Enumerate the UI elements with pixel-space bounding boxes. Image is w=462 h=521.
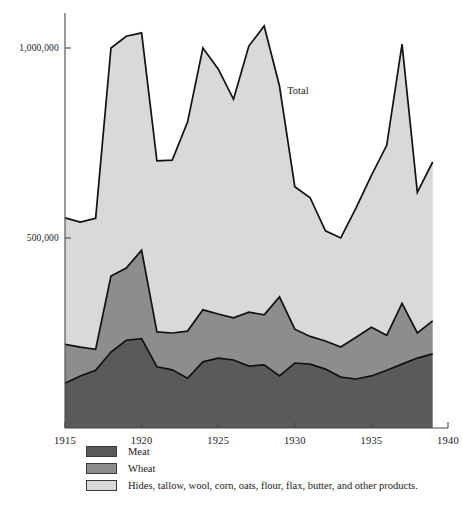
legend-label-other-products: Hides, tallow, wool, corn, oats, flour, …	[128, 480, 418, 491]
y-axis-tick-label: 1,000,000	[19, 43, 59, 53]
chart-container: 500,0001,000,000 19151920192519301935194…	[0, 0, 462, 521]
chart-legend: Meat Wheat Hides, tallow, wool, corn, oa…	[0, 443, 462, 503]
y-axis-tick-label: 500,000	[27, 233, 59, 243]
stacked-area-bands	[65, 26, 433, 428]
legend-item-other-products: Hides, tallow, wool, corn, oats, flour, …	[0, 477, 462, 494]
y-axis-ticks	[65, 48, 71, 238]
legend-item-meat: Meat	[0, 443, 462, 460]
legend-label-wheat: Wheat	[128, 463, 155, 474]
chart-annotations: Total	[287, 85, 309, 96]
total-label: Total	[287, 85, 309, 96]
legend-label-meat: Meat	[128, 446, 150, 457]
legend-swatch-wheat	[86, 463, 117, 474]
legend-swatch-meat	[86, 446, 117, 457]
legend-item-wheat: Wheat	[0, 460, 462, 477]
y-axis-tick-labels: 500,0001,000,000	[19, 43, 59, 243]
legend-swatch-other-products	[86, 480, 117, 491]
